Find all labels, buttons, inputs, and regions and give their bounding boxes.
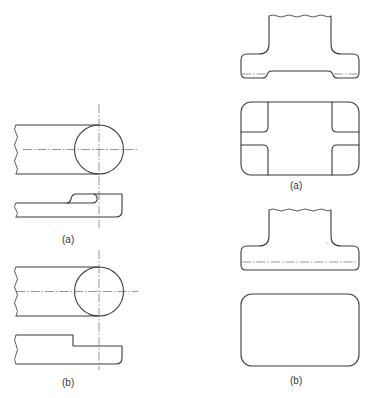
elevation-outline bbox=[241, 210, 359, 270]
right-figure-b: (b) bbox=[241, 209, 359, 386]
label-right-b: (b) bbox=[290, 375, 302, 386]
break-line bbox=[269, 209, 331, 211]
left-figure-a: (a) bbox=[15, 104, 139, 245]
right-a-plan-view bbox=[241, 102, 359, 175]
elevation-outline bbox=[16, 194, 122, 217]
break-line bbox=[15, 335, 18, 364]
pad-top-left bbox=[241, 102, 268, 132]
break-line bbox=[269, 15, 331, 17]
left-figure-b: (b) bbox=[15, 250, 139, 388]
break-line bbox=[15, 203, 18, 217]
left-a-plan-view bbox=[15, 125, 139, 174]
speck bbox=[326, 242, 327, 243]
outer-outline bbox=[241, 102, 359, 175]
right-b-plan-view bbox=[241, 294, 359, 366]
right-a-elevation-view bbox=[241, 15, 359, 78]
technical-drawing: (a) (b) (a) bbox=[0, 0, 375, 398]
left-b-plan-view bbox=[15, 267, 139, 316]
right-figure-a: (a) bbox=[241, 15, 359, 191]
right-b-elevation-view bbox=[241, 209, 359, 270]
left-a-elevation-view bbox=[15, 194, 123, 217]
label-left-a: (a) bbox=[62, 234, 74, 245]
outer-outline bbox=[241, 294, 359, 366]
elevation-outline bbox=[16, 335, 122, 364]
label-right-a: (a) bbox=[290, 180, 302, 191]
pad-bottom-right bbox=[332, 145, 359, 175]
break-line bbox=[15, 125, 18, 174]
label-left-b: (b) bbox=[62, 377, 74, 388]
pad-bottom-left bbox=[241, 145, 268, 175]
elevation-outline bbox=[241, 16, 359, 78]
pad-top-right bbox=[332, 102, 359, 132]
left-b-elevation-view bbox=[15, 335, 123, 364]
